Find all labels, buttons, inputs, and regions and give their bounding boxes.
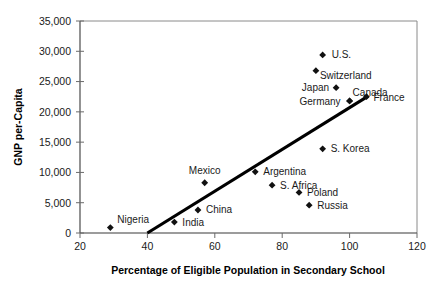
data-point-label: Germany [299, 96, 340, 107]
data-point-label: Japan [302, 82, 329, 93]
data-point-label: Nigeria [117, 214, 149, 225]
data-point-marker [306, 202, 313, 209]
trend-line-group [147, 96, 368, 233]
data-point-label: Poland [307, 187, 338, 198]
y-tick-label: 0 [65, 227, 71, 239]
data-point-label: S. Korea [331, 143, 370, 154]
data-point-marker [195, 207, 202, 214]
y-tick-label: 10,000 [39, 166, 71, 178]
data-point-label: India [182, 217, 204, 228]
y-tick-label: 25,000 [39, 75, 71, 87]
data-point-label: Mexico [189, 165, 221, 176]
data-point-marker [252, 168, 259, 175]
x-tick-label: 40 [142, 240, 154, 252]
data-point-label: Switzerland [320, 70, 372, 81]
y-axis-ticks: 05,00010,00015,00020,00025,00030,00035,0… [39, 15, 84, 239]
data-point-label: U.S. [332, 49, 351, 60]
y-tick-label: 5,000 [45, 197, 71, 209]
x-axis-title: Percentage of Eligible Population in Sec… [111, 264, 385, 276]
y-tick-label: 15,000 [39, 136, 71, 148]
chart-canvas: 05,00010,00015,00020,00025,00030,00035,0… [0, 0, 444, 284]
data-point-marker [313, 67, 320, 74]
data-point-marker [346, 98, 353, 105]
x-axis-ticks: 20406080100120 [74, 233, 426, 252]
data-point-marker [333, 84, 340, 91]
x-tick-label: 60 [209, 240, 221, 252]
data-points-group: U.S.SwitzerlandJapanCanadaGermanyFranceS… [107, 49, 405, 231]
data-point-marker [171, 219, 178, 226]
x-tick-label: 120 [408, 240, 426, 252]
data-point-marker [319, 145, 326, 152]
data-point-label: China [206, 204, 233, 215]
y-tick-label: 30,000 [39, 45, 71, 57]
y-axis-title: GNP per-Capita [12, 88, 24, 166]
plot-frame [80, 21, 417, 233]
data-point-marker [319, 52, 326, 59]
data-point-label: Russia [317, 200, 348, 211]
trend-line [147, 96, 368, 233]
data-point-marker [269, 182, 276, 189]
data-point-marker [201, 179, 208, 186]
x-tick-label: 100 [341, 240, 359, 252]
x-tick-label: 20 [74, 240, 86, 252]
y-tick-label: 20,000 [39, 106, 71, 118]
data-point-label: France [373, 92, 405, 103]
scatter-chart: 05,00010,00015,00020,00025,00030,00035,0… [0, 0, 444, 284]
data-point-label: Argentina [263, 166, 306, 177]
data-point-marker [107, 224, 114, 231]
x-tick-label: 80 [276, 240, 288, 252]
y-tick-label: 35,000 [39, 15, 71, 27]
